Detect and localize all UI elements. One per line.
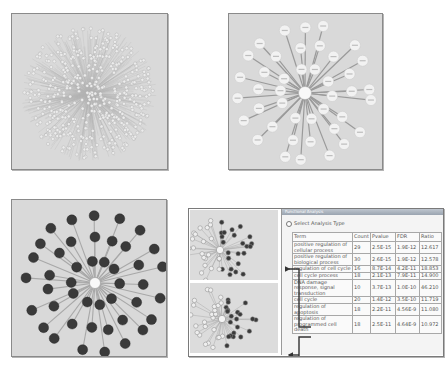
cell-ratio: 11.080 xyxy=(420,303,442,315)
arrow-cell-cycle xyxy=(289,269,311,327)
cell-pvalue: 2.1E-13 xyxy=(371,272,396,279)
cell-fdr: 7.9E-11 xyxy=(396,272,420,279)
highlighted-network-graph xyxy=(12,200,166,356)
network-node xyxy=(203,342,207,346)
cell-count: 18 xyxy=(353,316,371,334)
analysis-composite-panel: Functional Analysis Select Analysis Type… xyxy=(188,208,444,357)
network-node xyxy=(191,246,195,250)
network-node xyxy=(194,324,198,328)
highlighted-subnetwork-panel xyxy=(11,199,167,357)
cell-fdr: 4.64E-9 xyxy=(396,316,420,334)
cell-pvalue: 2.5E-15 xyxy=(371,242,396,254)
network-node xyxy=(206,253,210,257)
cell-pvalue: 3.7E-13 xyxy=(371,279,396,297)
cell-ratio: 46.210 xyxy=(420,279,442,297)
network-node xyxy=(199,271,203,275)
cell-fdr: 1.9E-12 xyxy=(396,242,420,254)
network-node xyxy=(222,230,226,234)
network-node xyxy=(202,320,206,324)
cell-ratio: 10.972 xyxy=(420,316,442,334)
network-node xyxy=(192,298,196,302)
cell-count: 10 xyxy=(353,279,371,297)
cell-ratio: 12.617 xyxy=(420,242,442,254)
network-node xyxy=(209,236,213,240)
labeled-subnetwork-panel xyxy=(228,13,383,170)
network-node xyxy=(217,267,221,271)
network-node xyxy=(208,288,212,292)
cell-count: 18 xyxy=(353,303,371,315)
network-node xyxy=(212,327,216,331)
cell-count: 29 xyxy=(353,242,371,254)
header-ratio[interactable]: Ratio xyxy=(420,233,442,242)
network-node xyxy=(203,263,207,267)
network-node xyxy=(191,303,195,307)
cell-count: 18 xyxy=(353,272,371,279)
network-node xyxy=(198,226,202,230)
network-node xyxy=(193,232,197,236)
network-node xyxy=(203,278,207,280)
cell-pvalue: 1.4E-12 xyxy=(371,297,396,304)
cell-pvalue: 2.5E-11 xyxy=(371,316,396,334)
network-node xyxy=(209,266,213,270)
network-node xyxy=(219,301,223,305)
network-node xyxy=(190,237,194,241)
cell-count: 30 xyxy=(353,254,371,266)
network-node xyxy=(190,313,193,317)
network-node xyxy=(220,220,224,224)
header-pvalue[interactable]: Pvalue xyxy=(371,233,396,242)
cell-fdr: 3.5E-10 xyxy=(396,297,420,304)
link-arrows xyxy=(229,209,329,356)
labeled-network-graph xyxy=(229,14,382,169)
header-fdr[interactable]: FDR xyxy=(396,233,420,242)
network-node xyxy=(203,324,207,328)
cell-ratio: 14.900 xyxy=(420,272,442,279)
cell-ratio: 12.578 xyxy=(420,254,442,266)
network-node xyxy=(190,246,191,250)
network-node xyxy=(211,345,215,349)
cell-pvalue: 2.6E-15 xyxy=(371,254,396,266)
dense-network-graph xyxy=(12,14,167,169)
network-node xyxy=(200,252,204,256)
cell-fdr: 4.56E-9 xyxy=(396,303,420,315)
cell-count: 20 xyxy=(353,297,371,304)
network-node xyxy=(208,218,212,222)
network-node xyxy=(217,256,221,260)
network-node xyxy=(217,335,221,339)
network-node xyxy=(195,330,199,334)
network-node xyxy=(208,223,212,227)
full-network-panel xyxy=(11,13,168,170)
network-node xyxy=(221,240,225,244)
network-node xyxy=(219,295,223,299)
cell-pvalue: 2.2E-11 xyxy=(371,303,396,315)
cell-fdr: 1.0E-10 xyxy=(396,279,420,297)
network-node xyxy=(201,239,205,243)
cell-fdr: 1.9E-12 xyxy=(396,254,420,266)
header-count[interactable]: Count xyxy=(353,233,371,242)
cell-ratio: 11.719 xyxy=(420,297,442,304)
